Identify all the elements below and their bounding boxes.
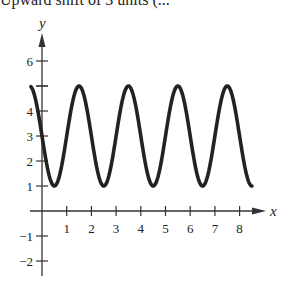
curve (31, 86, 252, 186)
y-axis-label: y (37, 15, 46, 31)
x-tick-label: 8 (236, 221, 243, 236)
y-axis-arrow-icon (39, 33, 46, 47)
y-tick-label: −1 (19, 229, 33, 244)
x-tick-label: 6 (187, 221, 194, 236)
x-tick-label: 4 (138, 221, 145, 236)
y-tick-label: 6 (27, 54, 34, 69)
x-tick-label: 7 (212, 221, 219, 236)
y-tick-label: 1 (27, 179, 34, 194)
y-tick-label: −2 (19, 254, 33, 269)
y-tick-label: 2 (27, 154, 34, 169)
sine-curve (31, 86, 252, 186)
x-axis-arrow-icon (252, 208, 266, 215)
x-tick-label: 2 (88, 221, 95, 236)
y-tick-label: 3 (27, 129, 34, 144)
x-tick-label: 5 (162, 221, 169, 236)
function-graph: 12345678−2−112346 x y (0, 0, 290, 286)
y-tick-label: 4 (27, 104, 34, 119)
x-tick-label: 3 (113, 221, 120, 236)
x-axis-label: x (269, 203, 277, 219)
x-tick-label: 1 (63, 221, 70, 236)
